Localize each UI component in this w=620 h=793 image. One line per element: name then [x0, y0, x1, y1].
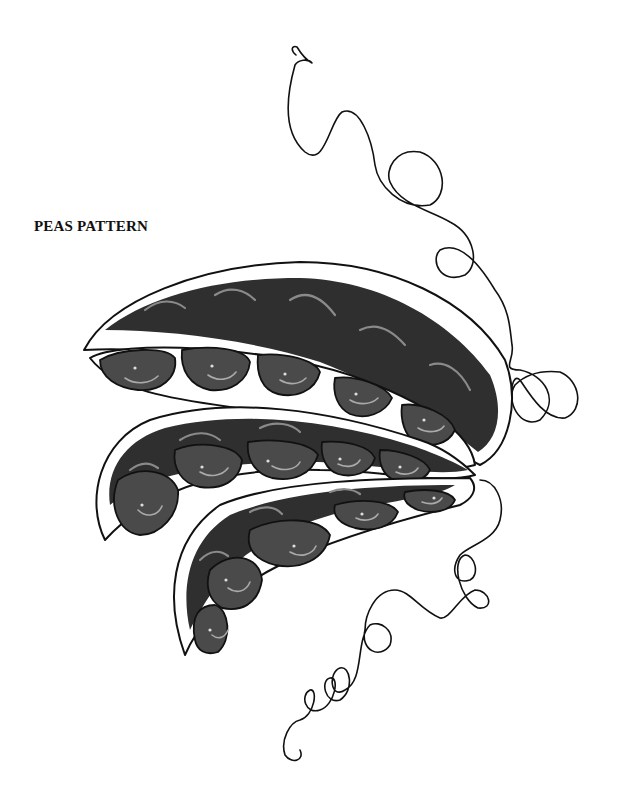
pea-pod-bottom — [174, 478, 474, 655]
peas-illustration — [0, 0, 620, 793]
